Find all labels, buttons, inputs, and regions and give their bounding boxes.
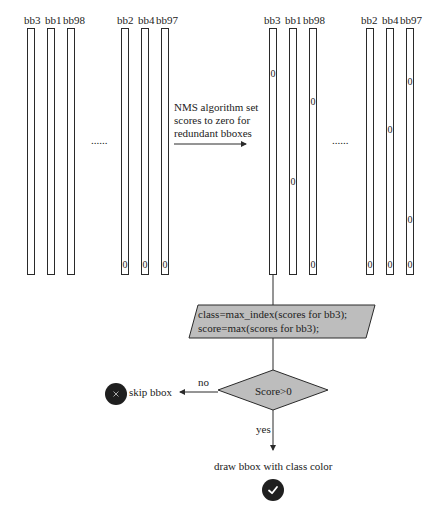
decision-label: Score>0 [255,385,292,398]
yes-label: yes [256,423,271,436]
process-box-line2: score=max(scores for bb3); [198,322,319,335]
process-box-line1: class=max_index(scores for bb3); [198,308,347,321]
draw-bbox-label: draw bbox with class color [214,460,333,473]
no-label: no [198,376,209,389]
check-icon [262,479,284,501]
close-icon [105,383,127,405]
skip-bbox-label: skip bbox [129,386,172,399]
flowchart-connectors [0,0,438,506]
